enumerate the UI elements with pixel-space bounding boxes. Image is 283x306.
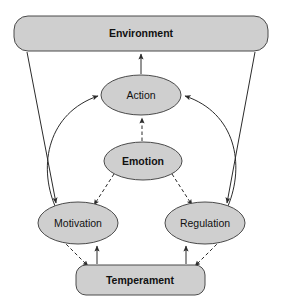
node-temperament[interactable]: Temperament <box>76 265 205 295</box>
temperament-label: Temperament <box>106 274 175 286</box>
node-action[interactable]: Action <box>101 75 181 115</box>
node-environment[interactable]: Environment <box>14 16 268 51</box>
emotion-label: Emotion <box>122 155 164 167</box>
edge-motivation-to-action <box>47 96 98 206</box>
edge-emotion-to-regulation <box>172 174 192 205</box>
node-motivation[interactable]: Motivation <box>38 202 118 244</box>
node-regulation[interactable]: Regulation <box>165 202 245 244</box>
edge-environment-to-regulation <box>227 52 255 203</box>
node-emotion[interactable]: Emotion <box>104 142 182 180</box>
diagram-svg: Environment Action Emotion Motivation Re… <box>0 0 283 306</box>
regulation-label: Regulation <box>180 217 230 229</box>
environment-label: Environment <box>109 27 174 39</box>
edge-emotion-to-motivation <box>94 174 114 205</box>
edge-environment-to-motivation <box>27 52 56 203</box>
diagram-canvas: Environment Action Emotion Motivation Re… <box>0 0 283 306</box>
action-label: Action <box>126 89 155 101</box>
motivation-label: Motivation <box>54 217 102 229</box>
edge-regulation-to-action <box>185 96 236 206</box>
